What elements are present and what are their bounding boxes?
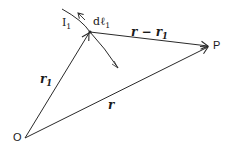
point-p-label: P xyxy=(213,40,220,51)
current-label-sub: 1 xyxy=(66,22,71,31)
vector-r-minus-r1-sub: 1 xyxy=(162,31,168,41)
current-direction-arrow-icon xyxy=(78,13,85,20)
vector-r-label: r xyxy=(108,99,114,111)
vector-r-minus-r1-label: r − r1 xyxy=(131,26,168,38)
vector-r-minus-r1-main: r − r xyxy=(131,25,162,39)
wire-direction-tick xyxy=(112,61,118,68)
line-element-label: dℓ1 xyxy=(93,16,110,27)
current-label: I1 xyxy=(62,17,71,28)
origin-label: O xyxy=(13,132,22,143)
vector-diagram-canvas xyxy=(0,0,234,152)
source-point-dot xyxy=(88,30,91,33)
vector-r1-label: r1 xyxy=(40,73,52,85)
vector-r1-sub: 1 xyxy=(46,78,52,88)
line-element-sub: 1 xyxy=(105,21,110,30)
line-element-main: dℓ xyxy=(93,15,105,28)
